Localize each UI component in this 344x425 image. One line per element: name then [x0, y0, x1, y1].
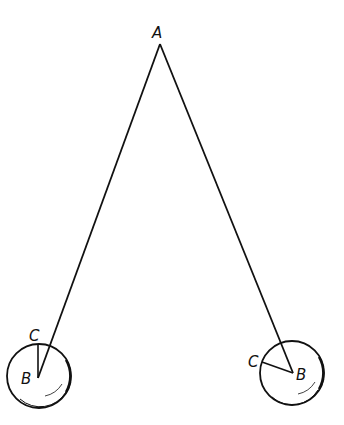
right-ball [260, 341, 324, 405]
label-right-b: B [296, 366, 306, 384]
label-a: A [151, 24, 162, 42]
label-left-b: B [21, 370, 31, 388]
label-right-c: C [248, 353, 259, 371]
pendulum-diagram: A C B C B [0, 0, 344, 425]
label-left-c: C [29, 327, 40, 345]
right-string [160, 44, 293, 373]
left-string [38, 44, 160, 378]
